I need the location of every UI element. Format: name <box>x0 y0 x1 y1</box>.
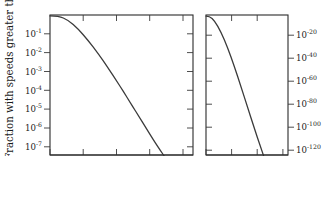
svg-text:10-120: 10-120 <box>296 143 321 155</box>
right-ytick-exp-60: -60 <box>307 74 317 81</box>
svg-text:10-4: 10-4 <box>25 84 42 96</box>
svg-text:10-80: 10-80 <box>296 97 317 109</box>
left-ytick-marks <box>44 34 50 147</box>
left-curve-maxwell-tail <box>50 16 168 161</box>
svg-text:10-5: 10-5 <box>25 102 42 114</box>
left-ytick-exp-5: -5 <box>36 102 42 109</box>
svg-text:10-6: 10-6 <box>25 121 42 133</box>
left-ytick-exp-3: -3 <box>36 65 42 72</box>
bottom-mask <box>0 156 331 197</box>
svg-text:10-20: 10-20 <box>296 28 317 40</box>
gutter-mask <box>194 0 205 156</box>
right-xtick-marks <box>206 149 283 155</box>
svg-text:10-100: 10-100 <box>296 120 321 132</box>
figure-container: 10-1 10-2 10-3 10-4 10-5 10-6 10-7 0 1 2… <box>0 0 331 197</box>
right-ytick-exp-80: -80 <box>307 97 317 104</box>
yaxis-title-text: Fraction with speeds greater than <box>4 0 15 160</box>
svg-text:10-60: 10-60 <box>296 74 317 86</box>
svg-text:10-1: 10-1 <box>25 27 42 39</box>
left-ytick-exp-4: -4 <box>36 84 42 91</box>
yaxis-title: Fraction with speeds greater than ve <box>4 0 17 160</box>
right-ytick-labels: 10-20 10-40 10-60 10-80 10-100 10-120 <box>296 28 321 155</box>
right-plot-frame <box>206 15 288 155</box>
right-ytick-marks-left <box>206 35 212 150</box>
left-ytick-exp-1: -1 <box>36 27 42 34</box>
right-ytick-exp-20: -20 <box>307 28 317 35</box>
right-ytick-marks <box>288 35 294 150</box>
right-ytick-exp-120: -120 <box>307 143 321 150</box>
right-xtick-marks-top <box>232 15 258 21</box>
right-ytick-exp-100: -100 <box>307 120 321 127</box>
left-ytick-exp-2: -2 <box>36 46 42 53</box>
left-ytick-labels: 10-1 10-2 10-3 10-4 10-5 10-6 10-7 <box>25 27 42 152</box>
left-xtick-marks-top <box>83 15 183 21</box>
left-ytick-exp-7: -7 <box>36 140 42 147</box>
svg-text:10-40: 10-40 <box>296 51 317 63</box>
left-plot-frame <box>50 15 193 155</box>
right-ytick-exp-40: -40 <box>307 51 317 58</box>
left-ytick-marks-right <box>187 34 193 147</box>
right-curve-maxwell-tail <box>206 16 264 157</box>
svg-text:10-3: 10-3 <box>25 65 42 77</box>
dual-log-plot-figure: 10-1 10-2 10-3 10-4 10-5 10-6 10-7 0 1 2… <box>0 0 331 197</box>
left-ytick-exp-6: -6 <box>36 121 42 128</box>
svg-text:10-2: 10-2 <box>25 46 42 58</box>
svg-text:10-7: 10-7 <box>25 140 42 152</box>
